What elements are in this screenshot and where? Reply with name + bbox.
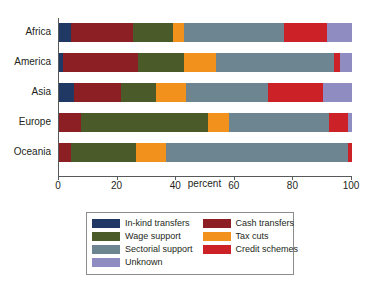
y-tick-label-oceania: Oceania [0,146,51,158]
legend-column-right: Cash transfersTax cutsCredit schemes [203,217,299,268]
bar-segment [59,23,71,42]
legend-label: Credit schemes [236,244,299,254]
y-tick-label-asia: Asia [0,86,51,98]
x-axis-line [58,176,351,177]
legend-swatch-icon [203,232,231,241]
legend-item[interactable]: Wage support [92,230,193,242]
bar-segment [184,23,284,42]
legend-label: Tax cuts [236,231,269,241]
bar-segment [348,113,352,132]
bar-segment [71,143,135,162]
bar-segment [133,23,173,42]
bar-segment [63,53,138,72]
legend-label: Cash transfers [236,218,295,228]
legend-swatch-icon [92,245,120,254]
legend-swatch-icon [92,232,120,241]
bar-segment [340,53,352,72]
legend-label: Unknown [125,257,163,267]
bar-segment [81,113,208,132]
table-row [59,53,352,72]
stacked-bar-chart: Africa America Asia Europe Oceania 02040… [0,0,380,284]
bar-segment [186,83,268,102]
legend-item[interactable]: Tax cuts [203,230,299,242]
bar-segment [74,83,121,102]
bar-segment [216,53,334,72]
legend-swatch-icon [92,258,120,267]
legend-item[interactable]: Unknown [92,256,193,268]
table-row [59,23,352,42]
bar-segment [173,23,184,42]
bar-segment [329,113,348,132]
bar-segment [59,113,81,132]
bar-segment [284,23,327,42]
legend-item[interactable]: Credit schemes [203,243,299,255]
bar-segment [136,143,166,162]
legend-swatch-icon [203,219,231,228]
bar-segment [121,83,156,102]
bar-segment [166,143,348,162]
bar-segment [348,143,352,162]
bar-segment [184,53,217,72]
y-tick-label-africa: Africa [0,26,51,38]
legend: In-kind transfersWage supportSectorial s… [86,212,294,275]
legend-column-left: In-kind transfersWage supportSectorial s… [92,217,193,268]
legend-label: Wage support [125,231,181,241]
legend-swatch-icon [203,245,231,254]
bar-segment [229,113,329,132]
y-tick-label-america: America [0,56,51,68]
legend-swatch-icon [92,219,120,228]
bar-segment [323,83,352,102]
x-axis-title: percent [58,178,351,189]
y-tick-label-europe: Europe [0,116,51,128]
table-row [59,83,352,102]
legend-label: In-kind transfers [125,218,190,228]
bar-segment [268,83,322,102]
bar-segment [327,23,352,42]
plot-area [58,18,351,176]
table-row [59,113,352,132]
bar-segment [59,143,71,162]
bar-segment [138,53,184,72]
y-axis-labels: Africa America Asia Europe Oceania [0,18,54,176]
table-row [59,143,352,162]
legend-label: Sectorial support [125,244,193,254]
bar-segment [59,83,74,102]
legend-item[interactable]: Sectorial support [92,243,193,255]
bar-segment [208,113,229,132]
bar-segment [156,83,186,102]
legend-item[interactable]: Cash transfers [203,217,299,229]
legend-item[interactable]: In-kind transfers [92,217,193,229]
bar-segment [71,23,133,42]
